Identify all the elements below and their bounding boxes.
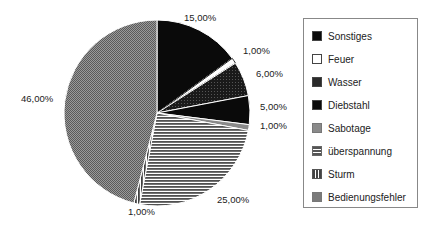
swatch-white-icon: [312, 54, 322, 64]
pie-slice-überspannung: [140, 113, 249, 206]
slice-label-bedienungsfehler: 46,00%: [21, 93, 53, 104]
slice-label-wasser: 6,00%: [256, 68, 283, 79]
swatch-solid-black-icon: [312, 100, 322, 110]
swatch-solid-black-icon: [312, 31, 322, 41]
legend-item-ueberspannung: überspannung: [312, 144, 392, 158]
swatch-speckle-icon: [312, 77, 322, 87]
legend-item-wasser: Wasser: [312, 75, 362, 89]
swatch-hstripes-icon: [312, 146, 322, 156]
legend-item-feuer: Feuer: [312, 52, 354, 66]
legend-item-sturm: Sturm: [312, 167, 355, 181]
slice-label-sturm: 1,00%: [128, 206, 155, 217]
slice-label-sonstiges: 15,00%: [184, 12, 216, 23]
legend-item-bedienungsfehler: Bedienungsfehler: [312, 190, 406, 204]
slice-label-diebstahl: 5,00%: [260, 101, 287, 112]
legend-item-sabotage: Sabotage: [312, 121, 371, 135]
pie-slices: [64, 20, 250, 206]
slice-label-sabotage: 1,00%: [260, 120, 287, 131]
swatch-crosshatch-icon: [312, 192, 322, 202]
legend-item-sonstiges: Sonstiges: [312, 29, 372, 43]
slice-label-feuer: 1,00%: [243, 45, 270, 56]
legend-item-diebstahl: Diebstahl: [312, 98, 370, 112]
swatch-gray-icon: [312, 123, 322, 133]
swatch-vstripes-icon: [312, 169, 322, 179]
legend: Sonstiges Feuer Wasser Diebstahl Sabotag…: [303, 18, 418, 208]
slice-label-ueberspannung: 25,00%: [217, 194, 249, 205]
